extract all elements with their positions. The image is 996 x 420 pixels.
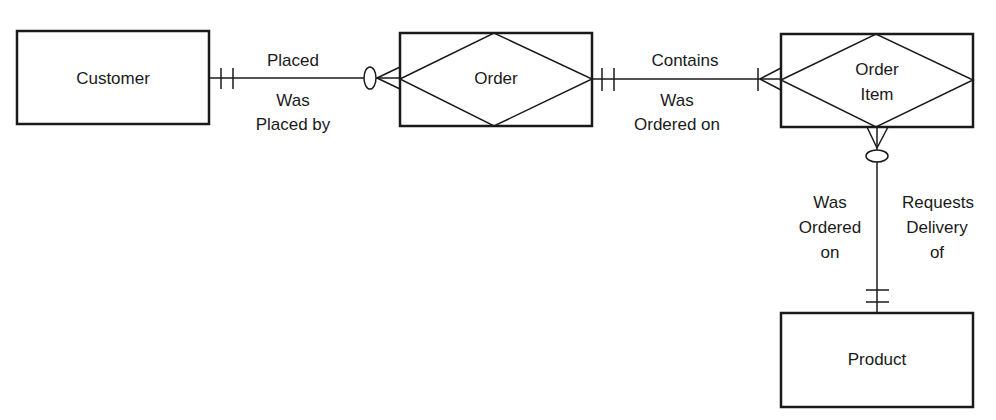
cardinality-zero-circle bbox=[364, 67, 376, 89]
relationship-label-was-ordered-on-v-line2: Ordered bbox=[799, 218, 861, 237]
relationship-label-placed: Placed bbox=[267, 51, 319, 70]
relationship-label-requests-delivery-of-line2: Delivery bbox=[906, 218, 968, 237]
relationship-label-was-placed-by-line2: Placed by bbox=[256, 115, 331, 134]
relationship-order-order-item[interactable]: Contains Was Ordered on bbox=[592, 51, 781, 134]
relationship-label-requests-delivery-of-line3: of bbox=[930, 243, 944, 262]
entity-product-label: Product bbox=[848, 350, 907, 369]
entity-order-item-label-line1: Order bbox=[855, 60, 899, 79]
relationship-label-contains: Contains bbox=[651, 51, 718, 70]
relationship-order-item-product[interactable]: Was Ordered on Requests Delivery of bbox=[799, 127, 974, 313]
crows-foot-right bbox=[877, 127, 888, 148]
crows-foot-upper bbox=[760, 68, 781, 79]
entity-order-item[interactable]: Order Item bbox=[781, 34, 973, 127]
er-diagram: Customer Order Order Item Product Placed… bbox=[0, 0, 996, 420]
entity-customer-label: Customer bbox=[76, 69, 150, 88]
relationship-label-requests-delivery-of-line1: Requests bbox=[902, 193, 974, 212]
crows-foot-lower bbox=[377, 78, 400, 89]
relationship-label-was-ordered-on-line1: Was bbox=[660, 91, 693, 110]
relationship-label-was-ordered-on-v-line1: Was bbox=[813, 193, 846, 212]
entity-product[interactable]: Product bbox=[781, 313, 973, 407]
entity-order[interactable]: Order bbox=[400, 33, 592, 126]
crows-foot-lower bbox=[760, 79, 781, 90]
relationship-label-was-ordered-on-line2: Ordered on bbox=[634, 115, 720, 134]
crows-foot-left bbox=[867, 127, 877, 148]
entity-order-label: Order bbox=[474, 69, 518, 88]
cardinality-zero-circle bbox=[866, 150, 888, 162]
entity-customer[interactable]: Customer bbox=[17, 31, 209, 124]
entity-order-item-label-line2: Item bbox=[860, 85, 893, 104]
relationship-customer-order[interactable]: Placed Was Placed by bbox=[209, 51, 400, 134]
relationship-label-was-ordered-on-v-line3: on bbox=[821, 243, 840, 262]
relationship-label-was-placed-by-line1: Was bbox=[276, 91, 309, 110]
crows-foot-upper bbox=[377, 67, 400, 78]
